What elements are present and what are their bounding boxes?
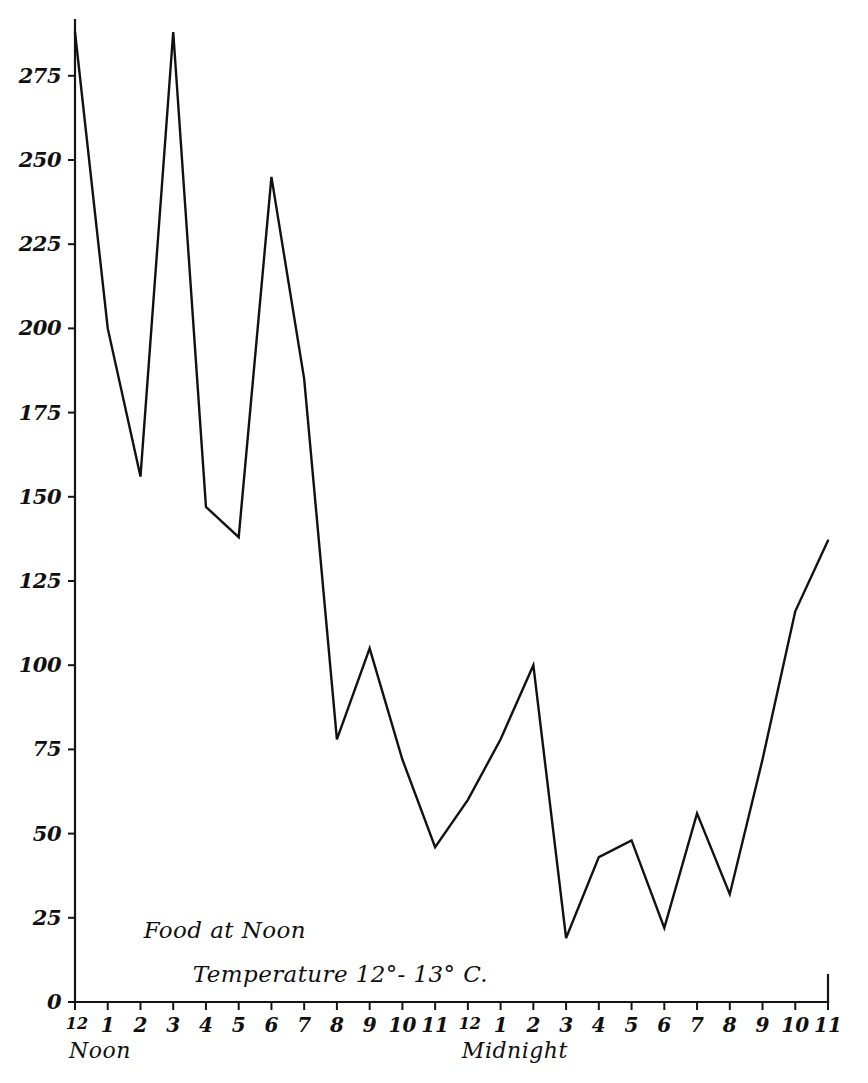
x-tick-label: 11 [814,1013,842,1037]
period-label-midnight: Midnight [461,1038,568,1063]
x-tick-label: 2 [525,1013,540,1037]
chart-annotation-0: Food at Noon [143,917,306,943]
y-tick-label: 150 [19,484,62,509]
x-tick-label: 12 [459,1014,481,1033]
activity-data-line [75,32,828,938]
y-tick-label: 175 [19,400,61,425]
chart-figure: 0255075100125150175200225250275 12123456… [0,0,868,1083]
x-tick-label: 3 [166,1013,180,1037]
line-chart-canvas: 0255075100125150175200225250275 12123456… [0,0,868,1083]
y-tick-label: 50 [33,821,62,846]
y-tick-label: 225 [18,231,61,256]
x-axis-ticks: 121234567891011121234567891011 [66,1002,842,1037]
y-axis-group: 0255075100125150175200225250275 [18,20,75,1014]
x-tick-label: 8 [722,1013,737,1037]
x-tick-label: 10 [781,1013,809,1037]
period-label-noon: Noon [68,1038,131,1063]
x-tick-label: 8 [329,1013,344,1037]
x-tick-label: 1 [494,1013,508,1037]
x-tick-label: 1 [101,1013,115,1037]
x-tick-label: 6 [657,1013,671,1037]
x-tick-label: 5 [625,1013,639,1037]
y-tick-label: 75 [33,736,61,761]
y-tick-label: 25 [32,905,61,930]
x-tick-label: 6 [264,1013,278,1037]
chart-annotation-1: Temperature 12°- 13° C. [193,961,488,987]
y-axis-ticks: 0255075100125150175200225250275 [18,63,75,1014]
x-tick-label: 9 [756,1013,770,1037]
annotations-group: Food at NoonTemperature 12°- 13° C. [143,917,488,987]
y-tick-label: 0 [47,989,62,1014]
x-tick-label: 11 [421,1013,449,1037]
x-tick-label: 5 [232,1013,246,1037]
y-tick-label: 100 [19,652,62,677]
x-tick-label: 7 [690,1013,704,1037]
x-tick-label: 2 [133,1013,148,1037]
y-tick-label: 275 [18,63,61,88]
y-tick-label: 200 [18,315,62,340]
x-tick-label: 7 [297,1013,311,1037]
x-tick-label: 4 [592,1013,606,1037]
x-tick-label: 4 [199,1013,213,1037]
x-tick-label: 10 [388,1013,416,1037]
x-tick-label: 12 [66,1014,88,1033]
period-labels-group: NoonMidnight [68,1038,568,1063]
x-tick-label: 9 [363,1013,377,1037]
series-group [75,32,828,938]
y-tick-label: 125 [19,568,61,593]
y-tick-label: 250 [18,147,62,172]
x-tick-label: 3 [559,1013,573,1037]
